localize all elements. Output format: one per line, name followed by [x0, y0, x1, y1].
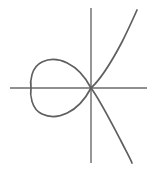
curve-plot-canvas [0, 0, 153, 171]
figure-root [0, 0, 153, 171]
